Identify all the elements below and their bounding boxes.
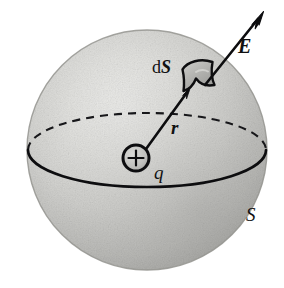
label-electric-field: E <box>238 36 251 56</box>
label-area-element-prefix: d <box>152 57 161 77</box>
label-radius: r <box>171 118 178 137</box>
label-surface: S <box>246 205 256 224</box>
gauss-law-figure: E dS r q S <box>0 0 284 288</box>
label-charge: q <box>154 163 164 182</box>
label-area-element-symbol: S <box>161 57 171 77</box>
label-area-element: dS <box>152 58 171 76</box>
point-charge <box>123 145 149 171</box>
